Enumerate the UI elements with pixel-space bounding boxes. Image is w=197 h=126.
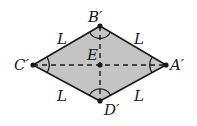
center-e-point [97, 62, 102, 67]
vertex-c-point [30, 62, 35, 67]
vertex-d-label: D′ [103, 101, 120, 119]
vertex-a-point [163, 62, 168, 67]
center-e-label: E [86, 46, 98, 64]
side-label-top-left: L [56, 30, 67, 48]
side-label-bottom-right: L [133, 87, 144, 105]
vertex-a-label: A′ [168, 56, 185, 74]
vertex-b-label: B′ [87, 8, 103, 26]
side-label-bottom-left: L [56, 87, 67, 105]
vertex-d-point [97, 98, 102, 103]
rhombus-diagram: B′ A′ D′ C′ E L L L L [0, 0, 197, 126]
side-label-top-right: L [133, 30, 144, 48]
vertex-c-label: C′ [14, 56, 29, 74]
